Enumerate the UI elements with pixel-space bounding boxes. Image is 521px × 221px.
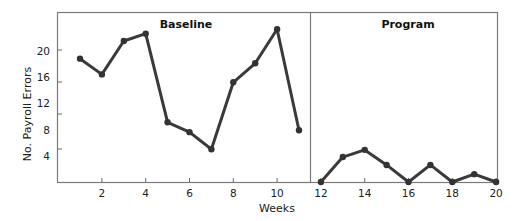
x-tick-label: 4 bbox=[142, 187, 149, 199]
data-point bbox=[318, 179, 324, 185]
x-tick-label: 2 bbox=[99, 187, 106, 199]
data-series bbox=[77, 26, 500, 185]
data-point bbox=[471, 171, 477, 177]
x-tick-label: 12 bbox=[314, 187, 327, 199]
data-point bbox=[493, 179, 499, 185]
series-line-program bbox=[321, 150, 496, 182]
data-point bbox=[164, 119, 170, 125]
x-tick-label: 18 bbox=[446, 187, 459, 199]
x-axis-label: Weeks bbox=[259, 202, 295, 215]
x-tick-label: 6 bbox=[186, 187, 193, 199]
x-tick-label: 10 bbox=[270, 187, 283, 199]
x-tick-label: 8 bbox=[230, 187, 237, 199]
x-axis-ticks: 2468101214161820 bbox=[99, 178, 503, 199]
y-tick-label: 12 bbox=[37, 97, 50, 109]
x-tick-label: 14 bbox=[358, 187, 372, 199]
data-point bbox=[274, 26, 280, 32]
data-point bbox=[383, 162, 389, 168]
data-point bbox=[186, 129, 192, 135]
phase-label-baseline: Baseline bbox=[160, 18, 213, 31]
data-point bbox=[296, 127, 302, 133]
y-axis-ticks: 48121620 bbox=[37, 45, 62, 162]
y-axis-label: No. Payroll Errors bbox=[21, 67, 34, 162]
y-tick-label: 20 bbox=[37, 45, 50, 57]
data-point bbox=[77, 55, 83, 61]
y-tick-label: 16 bbox=[37, 71, 51, 83]
y-tick-label: 8 bbox=[43, 124, 50, 136]
y-tick-label: 4 bbox=[43, 150, 50, 162]
phase-label-program: Program bbox=[381, 18, 434, 31]
data-point bbox=[340, 154, 346, 160]
data-point bbox=[230, 79, 236, 85]
data-point bbox=[427, 162, 433, 168]
data-point bbox=[99, 71, 105, 77]
data-point bbox=[143, 31, 149, 37]
data-point bbox=[252, 60, 258, 66]
data-point bbox=[121, 38, 127, 44]
data-point bbox=[362, 147, 368, 153]
payroll-errors-chart: Baseline Program Weeks No. Payroll Error… bbox=[0, 0, 521, 221]
data-point bbox=[208, 146, 214, 152]
x-tick-label: 16 bbox=[402, 187, 416, 199]
data-point bbox=[405, 179, 411, 185]
data-point bbox=[449, 179, 455, 185]
x-tick-label: 20 bbox=[489, 187, 502, 199]
